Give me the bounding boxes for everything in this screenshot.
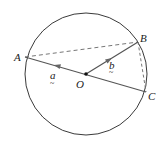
chord-ab-dashed <box>25 42 138 57</box>
tilde-vector-b: ~ <box>109 68 114 77</box>
label-a-point: A <box>13 51 21 63</box>
label-o-centre: O <box>76 78 84 90</box>
label-b-point: B <box>140 32 147 44</box>
tilde-vector-a: ~ <box>50 79 55 88</box>
centre-point-o <box>84 72 88 76</box>
circle-geometry-diagram: A B C O a ~ b ~ <box>0 0 162 142</box>
label-c-point: C <box>148 90 156 102</box>
